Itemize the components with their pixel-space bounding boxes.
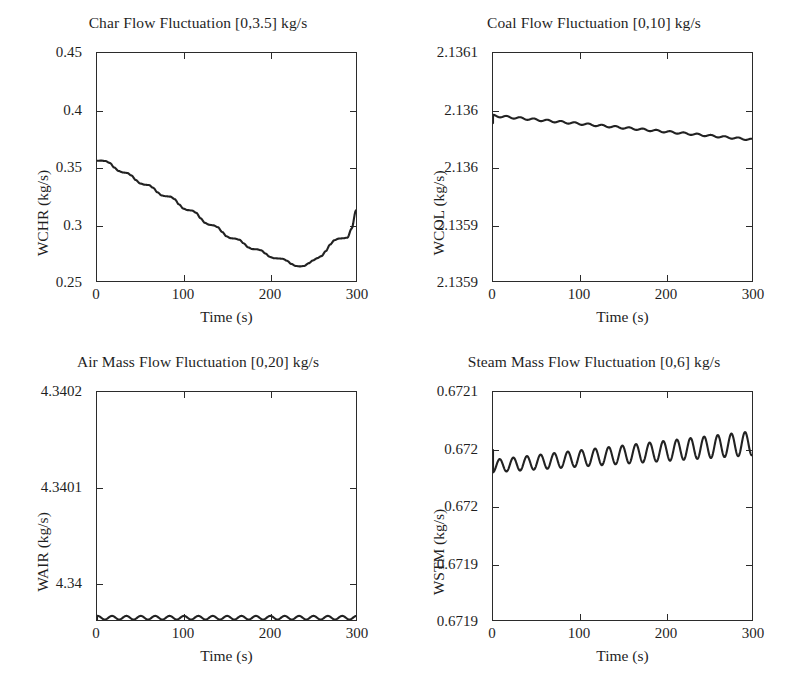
panel-title-coal-flow: Coal Flow Fluctuation [0,10] kg/s	[396, 14, 792, 32]
xaxis-title-wcol: Time (s)	[492, 308, 753, 326]
figure-subplot-grid: Char Flow Fluctuation [0,3.5] kg/s WCHR …	[0, 0, 792, 678]
yaxis-ticklabels-wchr: 0.45 0.4 0.35 0.3 0.25	[0, 52, 90, 282]
plot-area-wair	[96, 391, 357, 621]
xtick-label: 300	[742, 286, 765, 303]
data-curve-wair	[97, 392, 356, 620]
subplot-char-flow: Char Flow Fluctuation [0,3.5] kg/s WCHR …	[0, 0, 396, 339]
plot-area-wcol	[492, 52, 753, 282]
plot-area-wchr	[96, 52, 357, 282]
xtick-label: 0	[488, 286, 496, 303]
xtick-label: 200	[259, 286, 282, 303]
xaxis-title-wair: Time (s)	[96, 647, 357, 665]
panel-title-char-flow: Char Flow Fluctuation [0,3.5] kg/s	[0, 14, 396, 32]
ytick-label: 0.672	[444, 498, 478, 515]
data-curve-wchr	[97, 53, 356, 281]
ytick-label: 4.3401	[41, 479, 82, 496]
xtick-label: 300	[346, 286, 369, 303]
ytick-label: 2.1359	[437, 216, 478, 233]
xtick-label: 200	[259, 625, 282, 642]
xtick-label: 0	[92, 286, 100, 303]
ytick-label: 0.6719	[437, 613, 478, 630]
subplot-coal-flow: Coal Flow Fluctuation [0,10] kg/s WCOL (…	[396, 0, 792, 339]
ytick-label: 0.3	[63, 216, 82, 233]
ytick-label: 2.136	[444, 101, 478, 118]
ytick-label: 0.25	[56, 274, 82, 291]
plot-area-wstm	[492, 391, 753, 621]
panel-title-air-mass-flow: Air Mass Flow Fluctuation [0,20] kg/s	[0, 353, 396, 371]
ytick-label: 2.136	[444, 159, 478, 176]
xtick-label: 200	[655, 286, 678, 303]
subplot-air-mass-flow: Air Mass Flow Fluctuation [0,20] kg/s WA…	[0, 339, 396, 678]
xaxis-title-wstm: Time (s)	[492, 647, 753, 665]
xaxis-title-wchr: Time (s)	[96, 308, 357, 326]
xaxis-ticklabels-wchr: 0 100 200 300	[96, 286, 357, 308]
ytick-label: 0.45	[56, 44, 82, 61]
subplot-steam-mass-flow: Steam Mass Flow Fluctuation [0,6] kg/s W…	[396, 339, 792, 678]
xaxis-ticklabels-wair: 0 100 200 300	[96, 625, 357, 647]
yaxis-ticklabels-wcol: 2.1361 2.136 2.136 2.1359 2.1359	[396, 52, 486, 282]
data-curve-wstm	[493, 392, 752, 620]
panel-title-steam-mass-flow: Steam Mass Flow Fluctuation [0,6] kg/s	[396, 353, 792, 371]
xtick-label: 100	[568, 286, 591, 303]
xaxis-ticklabels-wcol: 0 100 200 300	[492, 286, 753, 308]
yaxis-ticklabels-wstm: 0.6721 0.672 0.672 0.6719 0.6719	[396, 391, 486, 621]
ytick-label: 0.35	[56, 159, 82, 176]
xtick-label: 0	[92, 625, 100, 642]
yaxis-ticklabels-wair: 4.3402 4.3401 4.34	[0, 391, 90, 621]
xtick-label: 100	[568, 625, 591, 642]
ytick-label: 0.6719	[437, 555, 478, 572]
xtick-label: 100	[172, 625, 195, 642]
xtick-label: 100	[172, 286, 195, 303]
xtick-label: 200	[655, 625, 678, 642]
xaxis-ticklabels-wstm: 0 100 200 300	[492, 625, 753, 647]
xtick-label: 300	[346, 625, 369, 642]
xtick-label: 0	[488, 625, 496, 642]
ytick-label: 4.34	[56, 575, 82, 592]
ytick-label: 2.1361	[437, 44, 478, 61]
ytick-label: 0.4	[63, 101, 82, 118]
ytick-label: 4.3402	[41, 383, 82, 400]
data-curve-wcol	[493, 53, 752, 281]
xtick-label: 300	[742, 625, 765, 642]
ytick-label: 0.672	[444, 440, 478, 457]
ytick-label: 2.1359	[437, 274, 478, 291]
ytick-label: 0.6721	[437, 383, 478, 400]
